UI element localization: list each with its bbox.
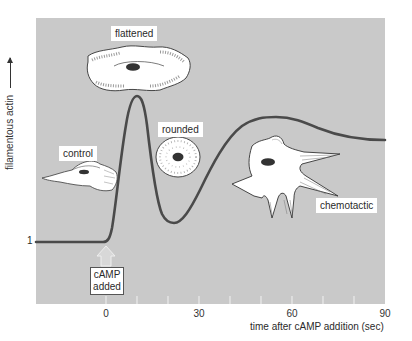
y-axis-arrow-icon <box>10 58 11 88</box>
x-axis-label: time after cAMP addition (sec) <box>250 321 384 332</box>
flattened-cell-icon <box>87 46 190 91</box>
x-tick-90: 90 <box>379 308 390 319</box>
rounded-label: rounded <box>158 122 203 137</box>
x-tick-0: 0 <box>103 308 109 319</box>
camp-label-line2: added <box>91 281 123 293</box>
figure-canvas <box>0 0 412 341</box>
y-axis-label-text: filamentous actin <box>4 95 15 170</box>
chemotactic-label: chemotactic <box>316 198 377 213</box>
y-axis-label: filamentous actin <box>4 58 15 170</box>
camp-added-label: cAMP added <box>90 267 124 295</box>
flattened-label: flattened <box>111 26 157 41</box>
control-label: control <box>59 146 97 161</box>
y-tick-label: 1 <box>27 235 33 246</box>
x-tick-60: 60 <box>286 308 297 319</box>
camp-label-line1: cAMP <box>91 269 123 281</box>
rounded-cell-icon <box>156 137 200 177</box>
x-tick-30: 30 <box>193 308 204 319</box>
